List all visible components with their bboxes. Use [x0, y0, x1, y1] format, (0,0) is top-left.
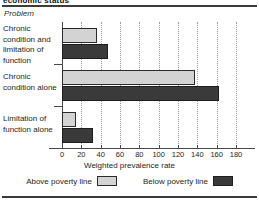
x-tick-mark [236, 145, 237, 149]
category-label: Limitation of function alone [3, 114, 61, 135]
gridline [236, 22, 238, 148]
x-tick-mark [159, 145, 160, 149]
x-tick-label: 20 [71, 150, 91, 159]
x-tick-label: 60 [110, 150, 130, 159]
x-tick-mark [120, 145, 121, 149]
x-axis-line [49, 148, 255, 149]
x-tick-label: 140 [187, 150, 207, 159]
bar-above [62, 112, 76, 127]
bar-below [62, 128, 93, 143]
x-tick-mark [139, 145, 140, 149]
y-axis-header-label: Problem [4, 9, 34, 18]
x-tick-mark [178, 145, 179, 149]
legend-swatch-below [213, 176, 233, 186]
bar-below [62, 86, 219, 101]
chart-legend: Above poverty line Below poverty line [0, 176, 259, 186]
chart-figure: economic status Problem Chronic conditio… [0, 0, 259, 203]
bar-below [62, 44, 108, 59]
x-tick-label: 120 [168, 150, 188, 159]
legend-item-below: Below poverty line [143, 176, 233, 186]
x-tick-label: 0 [52, 150, 72, 159]
x-tick-label: 180 [226, 150, 246, 159]
x-tick-label: 100 [149, 150, 169, 159]
x-tick-mark [81, 145, 82, 149]
x-tick-label: 40 [91, 150, 111, 159]
x-tick-mark [101, 145, 102, 149]
bar-above [62, 28, 97, 43]
legend-item-above: Above poverty line [26, 176, 117, 186]
title-rule-top [2, 5, 257, 7]
x-tick-mark [62, 145, 63, 149]
footer-rule [2, 196, 257, 198]
x-axis-title: Weighted prevalence rate [0, 161, 259, 170]
category-label: Chronic condition alone [3, 72, 61, 93]
y-tick-mark [54, 106, 62, 107]
legend-swatch-above [97, 176, 117, 186]
legend-label-above: Above poverty line [26, 177, 92, 186]
x-tick-mark [217, 145, 218, 149]
x-tick-mark [197, 145, 198, 149]
category-label: Chronic condition and limitation of func… [3, 24, 61, 66]
legend-label-below: Below poverty line [143, 177, 208, 186]
x-tick-label: 160 [207, 150, 227, 159]
x-tick-label: 80 [129, 150, 149, 159]
y-tick-mark [54, 64, 62, 65]
bar-above [62, 70, 195, 85]
